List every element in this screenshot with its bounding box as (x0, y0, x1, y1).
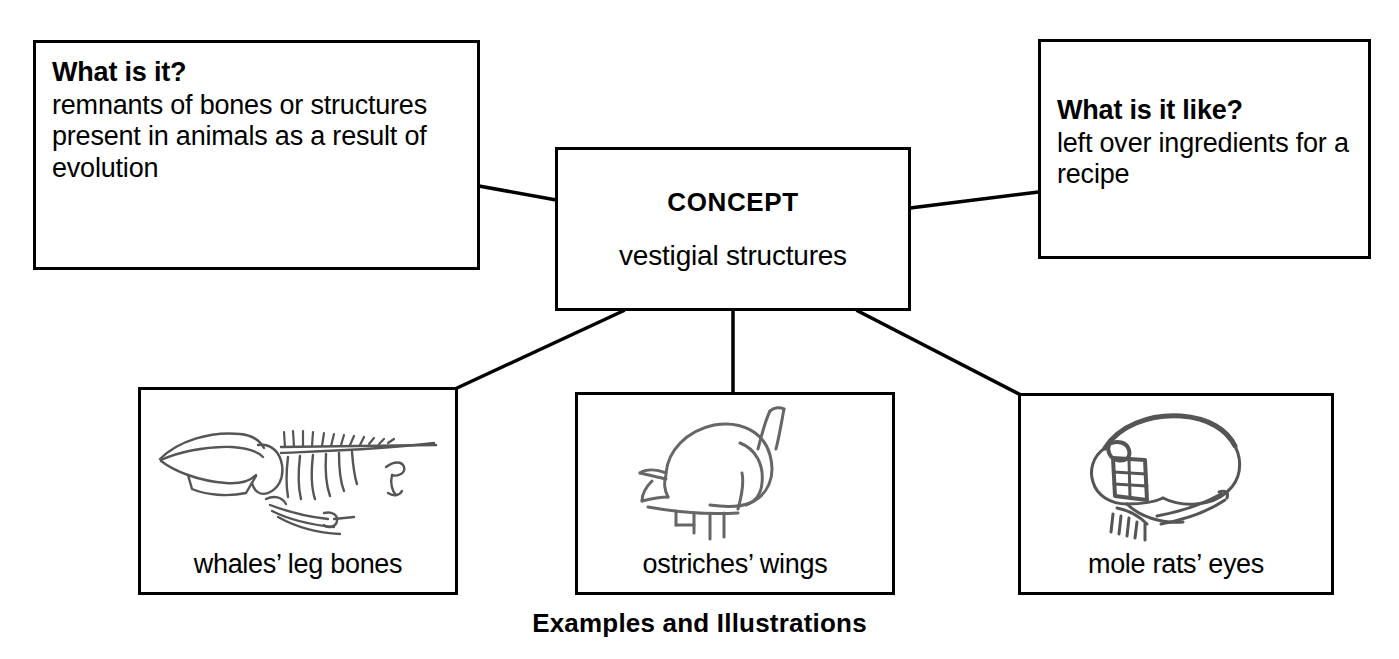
example-box: whales’ leg bones (138, 387, 458, 595)
example-box: ostriches’ wings (575, 392, 895, 595)
connector-concept-to-example-whales (457, 311, 623, 388)
ostrich-sketch (578, 395, 892, 551)
example-label: mole rats’ eyes (1088, 551, 1264, 586)
concept-term: vestigial structures (619, 240, 847, 272)
concept-title: CONCEPT (667, 187, 798, 218)
connector-concept-to-analogy (910, 192, 1039, 208)
diagram-caption: Examples and Illustrations (0, 608, 1399, 639)
example-label: ostriches’ wings (643, 551, 828, 586)
definition-heading: What is it? (52, 57, 461, 89)
definition-box: What is it? remnants of bones or structu… (33, 40, 480, 270)
analogy-body: left over ingredients for a recipe (1057, 128, 1352, 191)
mole-rat-head-sketch (1021, 396, 1331, 551)
example-box: mole rats’ eyes (1018, 393, 1334, 595)
connector-definition-to-concept (479, 186, 556, 200)
definition-body: remnants of bones or structures present … (52, 90, 461, 185)
analogy-box: What is it like? left over ingredients f… (1038, 39, 1371, 259)
connector-concept-to-example-mole-rats (858, 311, 1019, 394)
concept-map-diagram: What is it? remnants of bones or structu… (0, 0, 1399, 659)
concept-box: CONCEPT vestigial structures (555, 147, 911, 311)
whale-skeleton-sketch (141, 390, 455, 551)
analogy-heading: What is it like? (1057, 95, 1352, 127)
example-label: whales’ leg bones (194, 551, 403, 586)
